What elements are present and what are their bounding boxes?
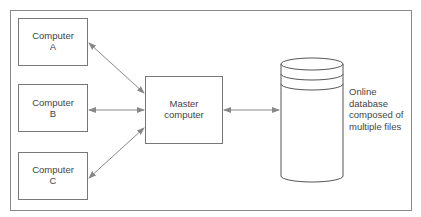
computer-b-label: Computer B	[18, 97, 88, 119]
computer-c-label: Computer C	[18, 164, 88, 186]
arrow-a-master	[89, 43, 144, 93]
database-label: Online database composed of multiple fil…	[349, 86, 419, 132]
database-cylinder-icon	[281, 58, 343, 182]
master-computer-label: Master computer	[145, 98, 223, 120]
computer-a-label: Computer A	[18, 30, 88, 52]
arrow-c-master	[89, 128, 144, 178]
